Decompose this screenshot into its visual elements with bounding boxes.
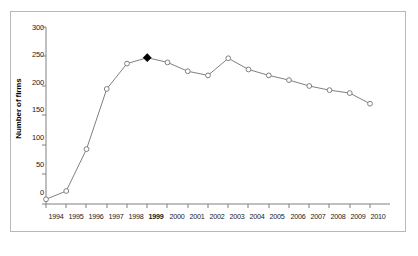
- data-point-highlight-1999: [144, 54, 151, 61]
- data-point-1995: [64, 189, 69, 194]
- data-point-2004: [246, 67, 251, 72]
- data-point-2001: [185, 69, 190, 74]
- y-axis-ticks: [42, 27, 46, 204]
- plot-area: [0, 0, 418, 256]
- data-point-2006: [287, 78, 292, 83]
- x-axis-ticks: [46, 204, 370, 208]
- axes: [42, 27, 390, 208]
- data-point-2005: [266, 73, 271, 78]
- data-point-2002: [206, 73, 211, 78]
- series-line: [46, 58, 370, 200]
- data-point-2010: [368, 101, 373, 106]
- data-point-2008: [327, 88, 332, 93]
- data-point-1996: [84, 147, 89, 152]
- data-point-1994: [44, 197, 49, 202]
- data-point-2009: [347, 91, 352, 96]
- data-point-2000: [165, 60, 170, 65]
- data-point-2007: [307, 84, 312, 89]
- series-markers: [44, 54, 373, 202]
- data-point-2003: [226, 56, 231, 61]
- data-point-1997: [104, 87, 109, 92]
- chart-container: Number of firms 300 250 200 150 100 50 0…: [0, 0, 418, 256]
- data-point-1998: [125, 61, 130, 66]
